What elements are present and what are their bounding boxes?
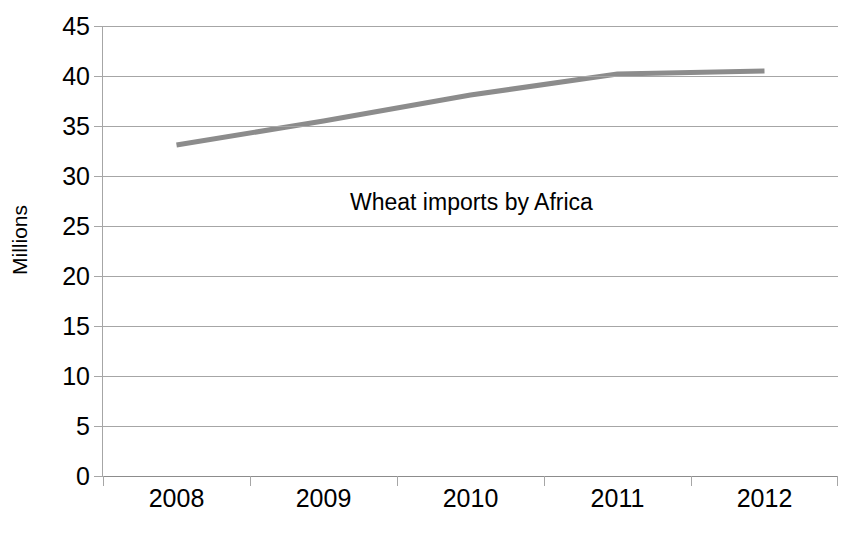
gridline — [103, 26, 838, 27]
y-axis-tick-label: 30 — [62, 164, 90, 189]
y-axis-tick-label: 5 — [76, 414, 90, 439]
y-axis-title: Millions — [0, 0, 40, 480]
x-axis-tick-label: 2009 — [296, 486, 352, 511]
gridline — [103, 376, 838, 377]
gridline — [103, 176, 838, 177]
x-axis-tick-labels: 20082009201020112012 — [103, 486, 838, 531]
x-axis-tick-mark — [837, 476, 838, 486]
x-axis-tick-mark — [250, 476, 251, 486]
y-axis-tick-mark — [94, 376, 103, 377]
y-axis-tick-label: 40 — [62, 64, 90, 89]
y-axis-tick-mark — [94, 426, 103, 427]
y-axis-title-label: Millions — [8, 205, 32, 275]
line-chart: Millions 051015202530354045 Wheat import… — [0, 0, 856, 539]
y-axis-tick-label: 45 — [62, 14, 90, 39]
y-axis-tick-mark — [94, 476, 103, 477]
series-line-wheat-imports — [103, 26, 838, 476]
gridline — [103, 326, 838, 327]
y-axis-tick-mark — [94, 26, 103, 27]
y-axis-tick-label: 20 — [62, 264, 90, 289]
y-axis-tick-mark — [94, 176, 103, 177]
gridline — [103, 76, 838, 77]
x-axis-line — [102, 476, 838, 477]
x-axis-tick-label: 2010 — [443, 486, 499, 511]
gridline — [103, 276, 838, 277]
chart-title: Wheat imports by Africa — [350, 189, 593, 216]
y-axis-tick-mark — [94, 226, 103, 227]
plot-area: Wheat imports by Africa — [103, 26, 838, 476]
gridline — [103, 426, 838, 427]
x-axis-tick-mark — [103, 476, 104, 486]
y-axis-tick-label: 0 — [76, 464, 90, 489]
x-axis-tick-label: 2012 — [737, 486, 793, 511]
x-axis-tick-label: 2011 — [591, 486, 645, 511]
x-axis-tick-mark — [544, 476, 545, 486]
y-axis-tick-label: 10 — [62, 364, 90, 389]
gridline — [103, 126, 838, 127]
y-axis-tick-label: 15 — [62, 314, 90, 339]
y-axis-tick-mark — [94, 326, 103, 327]
y-axis-tick-labels: 051015202530354045 — [40, 0, 96, 539]
x-axis-tick-mark — [397, 476, 398, 486]
y-axis-tick-label: 35 — [62, 114, 90, 139]
y-axis-tick-mark — [94, 76, 103, 77]
gridline — [103, 226, 838, 227]
y-axis-tick-label: 25 — [62, 214, 90, 239]
y-axis-tick-mark — [94, 126, 103, 127]
x-axis-tick-mark — [691, 476, 692, 486]
x-axis-tick-label: 2008 — [149, 486, 205, 511]
y-axis-tick-mark — [94, 276, 103, 277]
